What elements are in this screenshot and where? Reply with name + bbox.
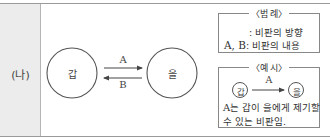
node-eul-label: 을 (162, 66, 182, 81)
example-arrow-label: A (263, 74, 275, 85)
legend-ab-symbols: A, B (224, 39, 246, 51)
example-line-2: 수 있는 비판임. (223, 114, 286, 128)
node-gap-label: 갑 (62, 66, 82, 81)
legend-arrow-meaning: : 비판의 방향 (249, 25, 303, 39)
arrow-b-label: B (116, 79, 130, 90)
example-gap-label: 갑 (235, 85, 247, 97)
example-box: 〈예 시〉 갑 을 A A는 갑이 을에게 제기할 수 있는 비판임. (218, 67, 320, 128)
example-title: 〈예 시〉 (219, 61, 319, 74)
arrow-a-label: A (116, 54, 130, 65)
legend-title: 〈범 례〉 (219, 7, 319, 20)
legend-box: 〈범 례〉 : 비판의 방향 A, B: 비판의 내용 (218, 13, 320, 53)
legend-ab-row: A, B: 비판의 내용 (224, 38, 300, 52)
example-line-1: A는 갑이 을에게 제기할 (223, 100, 320, 114)
example-eul-label: 을 (291, 85, 303, 97)
legend-ab-meaning: : 비판의 내용 (246, 40, 300, 51)
